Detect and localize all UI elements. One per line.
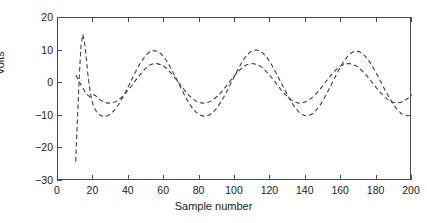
x-tick-bottom <box>340 175 341 180</box>
y-tick-label: −10 <box>35 109 53 121</box>
y-tick-label: −20 <box>35 141 53 153</box>
x-tick-top <box>163 17 164 22</box>
x-tick-label: 120 <box>261 184 279 196</box>
y-tick-label: −30 <box>35 174 53 186</box>
x-tick-bottom <box>92 175 93 180</box>
x-tick-label: 20 <box>87 184 99 196</box>
x-tick-top <box>92 17 93 22</box>
x-tick-bottom <box>411 175 412 180</box>
x-tick-bottom <box>269 175 270 180</box>
x-tick-top <box>305 17 306 22</box>
x-tick-top <box>269 17 270 22</box>
x-tick-label: 180 <box>367 184 385 196</box>
series-path-1 <box>76 64 412 103</box>
x-tick-label: 200 <box>402 184 420 196</box>
y-tick-left <box>57 147 62 148</box>
y-tick-label: 0 <box>47 76 53 88</box>
plot-axes-box <box>57 17 411 180</box>
x-tick-top <box>199 17 200 22</box>
x-tick-bottom <box>305 175 306 180</box>
y-tick-left <box>57 82 62 83</box>
series-path-0 <box>76 34 412 161</box>
y-tick-left <box>57 180 62 181</box>
x-tick-bottom <box>199 175 200 180</box>
x-tick-top <box>340 17 341 22</box>
x-tick-top <box>411 17 412 22</box>
x-tick-label: 0 <box>54 184 60 196</box>
figure-canvas: 020406080100120140160180200 20100−10−20−… <box>0 0 427 223</box>
x-tick-label: 100 <box>225 184 243 196</box>
x-tick-bottom <box>376 175 377 180</box>
y-tick-left <box>57 17 62 18</box>
x-tick-label: 40 <box>122 184 134 196</box>
x-tick-bottom <box>163 175 164 180</box>
x-tick-bottom <box>128 175 129 180</box>
x-tick-label: 160 <box>331 184 349 196</box>
y-tick-label: 20 <box>41 11 53 23</box>
x-tick-label: 60 <box>157 184 169 196</box>
y-tick-left <box>57 50 62 51</box>
x-axis-title: Sample number <box>0 200 427 212</box>
x-tick-top <box>128 17 129 22</box>
y-axis-title: Volts <box>0 51 6 75</box>
x-tick-top <box>234 17 235 22</box>
x-tick-label: 80 <box>193 184 205 196</box>
y-tick-left <box>57 115 62 116</box>
plot-curves <box>58 18 412 181</box>
x-tick-top <box>376 17 377 22</box>
y-tick-label: 10 <box>41 44 53 56</box>
x-tick-label: 140 <box>296 184 314 196</box>
x-tick-bottom <box>234 175 235 180</box>
